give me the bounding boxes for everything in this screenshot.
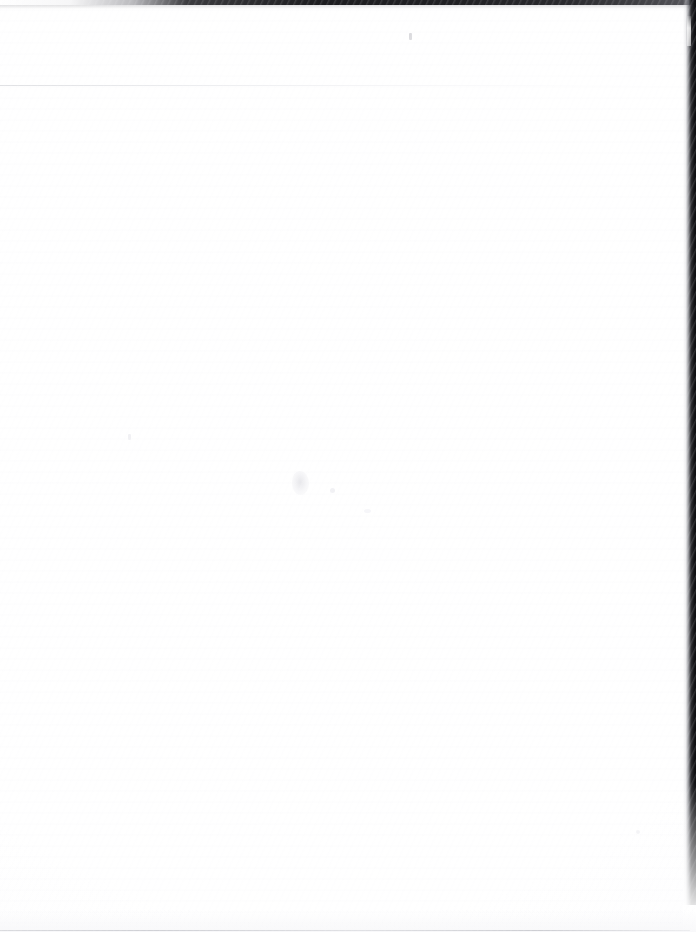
scanned-page: Scan of a blank page. No text, headings,… — [0, 0, 696, 932]
scan-banding — [0, 0, 696, 932]
bottom-haze — [0, 910, 696, 932]
top-edge-band — [0, 0, 696, 5]
bottom-hairline — [0, 930, 690, 931]
right-edge-notch — [687, 16, 691, 46]
speck-lower-left — [128, 434, 131, 440]
smudge-center — [292, 471, 309, 495]
smudge-faint-low — [364, 509, 371, 513]
top-hairline — [0, 85, 660, 86]
speck-lower-right — [636, 830, 640, 834]
speck-upper — [409, 33, 412, 40]
smudge-dot — [330, 488, 335, 493]
right-edge-strip — [683, 0, 696, 905]
